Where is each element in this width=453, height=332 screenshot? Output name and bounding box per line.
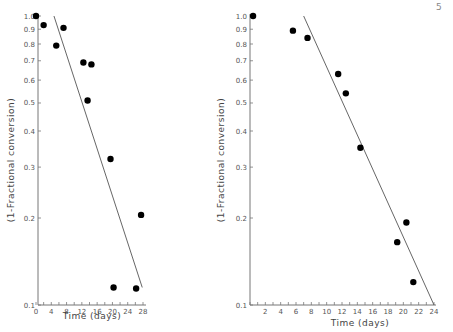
- x-tick-label: 10: [322, 308, 331, 316]
- x-tick-label: 6: [294, 308, 299, 316]
- y-tick-label: 0.4: [24, 128, 36, 136]
- data-point: [107, 156, 113, 162]
- y-tick-label: 0.3: [24, 164, 35, 172]
- y-tick-label: 0.8: [236, 41, 247, 49]
- corner-page-mark: 5: [436, 2, 442, 12]
- x-tick-label: 24: [123, 308, 132, 316]
- data-point: [110, 284, 116, 290]
- y-axis-title: (1-Fractional conversion): [216, 98, 226, 222]
- x-tick-label: 28: [139, 308, 148, 316]
- data-point: [410, 279, 416, 285]
- x-tick-label: 4: [49, 308, 54, 316]
- y-tick-label: 0.7: [24, 57, 35, 65]
- y-tick-label: 0.6: [236, 77, 248, 85]
- y-tick-label: 0.2: [236, 215, 247, 223]
- data-point: [138, 212, 144, 218]
- fit-line: [304, 16, 434, 305]
- data-point: [88, 61, 94, 67]
- fit-line: [54, 16, 142, 287]
- data-point: [357, 145, 363, 151]
- data-point: [250, 13, 256, 19]
- data-point: [33, 13, 39, 19]
- y-tick-label: 0.5: [24, 99, 35, 107]
- x-tick-label: 0: [34, 308, 38, 316]
- y-tick-label: 0.9: [236, 26, 247, 34]
- x-tick-label: 24: [430, 308, 439, 316]
- chart-canvas: 5 0.10.20.30.40.50.60.70.80.91.004812162…: [0, 0, 453, 332]
- x-tick-label: 12: [338, 308, 347, 316]
- data-point: [60, 25, 66, 31]
- data-point: [133, 285, 139, 291]
- x-tick-label: 18: [384, 308, 393, 316]
- x-axis-title: Time (days): [62, 311, 122, 321]
- y-tick-label: 0.3: [236, 164, 247, 172]
- x-tick-label: 20: [399, 308, 408, 316]
- data-point: [394, 239, 400, 245]
- y-tick-label: 1.0: [236, 13, 247, 21]
- data-point: [290, 27, 296, 33]
- x-tick-label: 16: [368, 308, 377, 316]
- x-tick-label: 8: [309, 308, 313, 316]
- data-point: [403, 219, 409, 225]
- y-tick-label: 0.9: [24, 26, 35, 34]
- data-point: [53, 42, 59, 48]
- data-point: [80, 59, 86, 65]
- x-tick-label: 14: [353, 308, 362, 316]
- y-tick-label: 0.2: [24, 215, 35, 223]
- data-point: [304, 35, 310, 41]
- y-tick-label: 0.4: [236, 128, 248, 136]
- y-tick-label: 0.8: [24, 41, 35, 49]
- y-tick-label: 0.6: [24, 77, 36, 85]
- x-tick-label: 2: [263, 308, 267, 316]
- y-tick-label: 0.7: [236, 57, 247, 65]
- data-point: [335, 71, 341, 77]
- x-axis-title: Time (days): [330, 318, 390, 328]
- data-point: [40, 22, 46, 28]
- y-tick-label: 0.5: [236, 99, 247, 107]
- y-axis-title: (1-Fractional conversion): [6, 98, 16, 222]
- y-tick-label: 0.1: [236, 302, 247, 310]
- plot-left: 0.10.20.30.40.50.60.70.80.91.00481216202…: [6, 13, 147, 322]
- data-point: [84, 97, 90, 103]
- plot-right: 0.10.20.30.40.50.60.70.80.91.02468101214…: [216, 13, 439, 329]
- x-tick-label: 22: [414, 308, 423, 316]
- data-point: [343, 90, 349, 96]
- x-tick-label: 4: [278, 308, 283, 316]
